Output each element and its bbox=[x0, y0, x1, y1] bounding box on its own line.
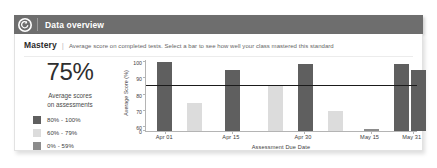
y-tick-mark bbox=[143, 110, 146, 111]
chart-bar[interactable] bbox=[225, 70, 240, 131]
chart-bar[interactable] bbox=[157, 62, 172, 131]
legend-swatch bbox=[33, 116, 41, 124]
mastery-bar-chart: Average Score (%) 060708090100 Apr 01Apr… bbox=[121, 60, 417, 146]
mastery-divider bbox=[24, 56, 413, 57]
x-tick-label: May 31 bbox=[402, 134, 421, 140]
chart-bar[interactable] bbox=[394, 64, 409, 131]
header-divider bbox=[37, 18, 38, 31]
chart-bar[interactable] bbox=[268, 86, 283, 131]
y-tick-label: 60 bbox=[136, 125, 142, 131]
legend-label: 60% - 79% bbox=[47, 130, 77, 136]
legend-swatch bbox=[33, 142, 41, 150]
x-tick-label: Apr 15 bbox=[222, 134, 239, 140]
chart-bar[interactable] bbox=[411, 70, 426, 131]
legend-item[interactable]: 60% - 79% bbox=[33, 126, 123, 139]
average-score-caption-line2: on assessments bbox=[21, 100, 119, 109]
score-band-legend: 80% - 100%60% - 79%0% - 59% bbox=[33, 113, 123, 152]
y-axis-ticks: 060708090100 bbox=[129, 60, 144, 132]
average-score-summary: 75% Average scores on assessments bbox=[21, 60, 119, 109]
back-arrow-circle-icon[interactable] bbox=[18, 18, 32, 32]
average-score-caption-line1: Average scores bbox=[21, 91, 119, 100]
legend-label: 80% - 100% bbox=[47, 117, 81, 123]
y-tick-mark bbox=[143, 130, 146, 131]
header-bar: Data overview bbox=[14, 15, 423, 34]
x-tick-label: May 15 bbox=[360, 134, 379, 140]
x-axis-ticks: Apr 01Apr 15Apr 30May 15May 31 bbox=[145, 134, 417, 144]
y-tick-label: 90 bbox=[136, 76, 142, 82]
plot-area bbox=[145, 60, 417, 132]
mastery-title: Mastery bbox=[24, 40, 57, 50]
x-tick-label: Apr 30 bbox=[294, 134, 311, 140]
x-axis-title: Assessment Due Date bbox=[145, 144, 417, 150]
legend-swatch bbox=[33, 129, 41, 137]
y-tick-label: 100 bbox=[133, 60, 142, 66]
chart-bar[interactable] bbox=[298, 64, 313, 131]
y-tick-label: 80 bbox=[136, 93, 142, 99]
header-title: Data overview bbox=[45, 20, 104, 30]
chart-bar[interactable] bbox=[187, 103, 202, 131]
y-tick-mark bbox=[143, 94, 146, 95]
y-tick-mark bbox=[143, 77, 146, 78]
mastery-separator: | bbox=[62, 41, 64, 50]
y-tick-mark bbox=[143, 126, 146, 127]
y-tick-mark bbox=[143, 61, 146, 62]
y-tick-label: 70 bbox=[136, 109, 142, 115]
average-score-value: 75% bbox=[21, 60, 119, 84]
mastery-description: Average score on completed tests. Select… bbox=[69, 43, 334, 49]
average-score-caption: Average scores on assessments bbox=[21, 91, 119, 109]
threshold-line bbox=[146, 85, 417, 87]
chart-bar[interactable] bbox=[328, 111, 343, 131]
legend-label: 0% - 59% bbox=[47, 143, 74, 149]
x-tick-label: Apr 01 bbox=[156, 134, 173, 140]
legend-item[interactable]: 80% - 100% bbox=[33, 113, 123, 126]
mastery-header: Mastery | Average score on completed tes… bbox=[24, 40, 414, 54]
legend-item[interactable]: 0% - 59% bbox=[33, 139, 123, 152]
mastery-card: Mastery | Average score on completed tes… bbox=[14, 34, 423, 151]
data-overview-screen: Data overview Mastery | Average score on… bbox=[0, 0, 437, 168]
